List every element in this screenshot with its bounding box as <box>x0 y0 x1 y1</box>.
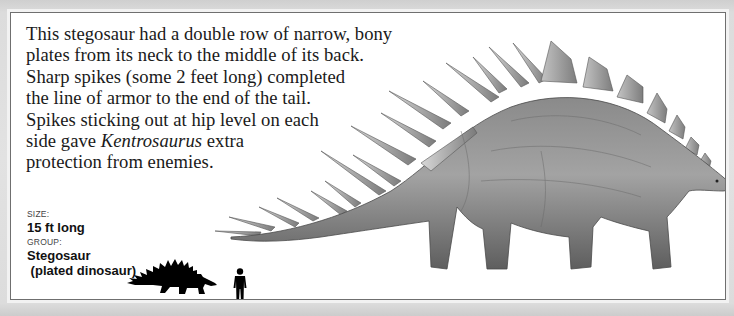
dinosaur-silhouette-icon <box>125 257 225 297</box>
species-name: Kentrosaurus <box>101 130 202 151</box>
size-label: SIZE: <box>27 209 136 220</box>
fact-box: SIZE: 15 ft long GROUP: Stegosaur (plate… <box>27 209 136 278</box>
group-label: GROUP: <box>27 237 136 248</box>
info-card: This stegosaur had a double row of narro… <box>10 12 726 300</box>
kentrosaurus-illustration <box>211 31 726 281</box>
group-value-detail: (plated dinosaur) <box>27 263 136 278</box>
description-text-run: side gave <box>26 130 101 151</box>
group-value: Stegosaur <box>27 248 136 263</box>
size-value: 15 ft long <box>27 220 136 235</box>
